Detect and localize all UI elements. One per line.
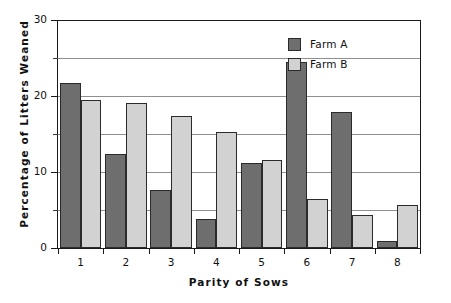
bar bbox=[81, 100, 102, 248]
legend-item-farm-b: Farm B bbox=[288, 54, 348, 74]
plot-frame-right bbox=[420, 20, 421, 249]
x-tick bbox=[284, 249, 285, 254]
y-tick-major bbox=[51, 20, 58, 21]
x-tick bbox=[330, 249, 331, 254]
x-tick bbox=[420, 249, 421, 254]
y-tick-minor bbox=[53, 210, 58, 211]
x-tick-label: 7 bbox=[339, 256, 365, 268]
x-axis-title: Parity of Sows bbox=[58, 276, 420, 288]
y-tick-minor bbox=[53, 134, 58, 135]
y-tick-major bbox=[51, 96, 58, 97]
x-tick-label: 2 bbox=[113, 256, 139, 268]
legend-label-farm-a: Farm A bbox=[310, 38, 348, 50]
x-tick-label: 3 bbox=[158, 256, 184, 268]
x-tick bbox=[239, 249, 240, 254]
bar bbox=[196, 219, 217, 248]
bar bbox=[171, 116, 192, 248]
y-tick-major bbox=[51, 172, 58, 173]
y-tick-label: 0 bbox=[13, 241, 47, 253]
bar bbox=[307, 199, 328, 248]
x-tick bbox=[58, 249, 59, 254]
bar bbox=[126, 103, 147, 248]
x-tick-label: 1 bbox=[68, 256, 94, 268]
y-tick-label: 10 bbox=[13, 165, 47, 177]
bar bbox=[60, 83, 81, 248]
x-tick-label: 6 bbox=[294, 256, 320, 268]
y-tick-minor bbox=[53, 58, 58, 59]
x-tick-label: 5 bbox=[249, 256, 275, 268]
legend-swatch-icon-farm-b bbox=[288, 58, 301, 71]
plot-frame-top bbox=[57, 20, 421, 21]
bar bbox=[377, 241, 398, 248]
bar bbox=[241, 163, 262, 248]
legend: Farm A Farm B bbox=[288, 34, 348, 74]
gridline bbox=[58, 58, 420, 59]
legend-swatch-icon-farm-a bbox=[288, 38, 301, 51]
bar bbox=[216, 132, 237, 248]
y-axis-title: Percentage of Litters Weaned bbox=[18, 4, 30, 244]
x-tick bbox=[149, 249, 150, 254]
bar bbox=[352, 215, 373, 248]
x-tick-label: 8 bbox=[384, 256, 410, 268]
bar bbox=[150, 190, 171, 248]
bar-chart: Percentage of Litters Weaned 0102030 123… bbox=[0, 0, 451, 303]
y-tick-label: 30 bbox=[13, 13, 47, 25]
bar bbox=[262, 160, 283, 248]
bar bbox=[331, 112, 352, 248]
bar bbox=[397, 205, 418, 248]
x-tick bbox=[194, 249, 195, 254]
bar bbox=[286, 62, 307, 248]
gridline bbox=[58, 96, 420, 97]
y-tick-major bbox=[51, 248, 58, 249]
x-tick bbox=[375, 249, 376, 254]
gridline bbox=[58, 134, 420, 135]
legend-label-farm-b: Farm B bbox=[310, 58, 348, 70]
bar bbox=[105, 154, 126, 248]
y-tick-label: 20 bbox=[13, 89, 47, 101]
x-tick bbox=[103, 249, 104, 254]
x-tick-label: 4 bbox=[203, 256, 229, 268]
legend-item-farm-a: Farm A bbox=[288, 34, 348, 54]
